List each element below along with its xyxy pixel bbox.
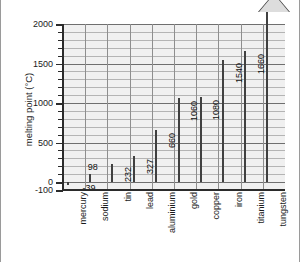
category-gridline — [107, 24, 108, 190]
y-axis-line — [62, 24, 64, 190]
x-axis-tick-labels: mercurysodiumtinleadaluminiumgoldcopperi… — [63, 192, 285, 260]
y-axis-tick — [58, 119, 63, 120]
y-axis-tick — [58, 32, 63, 33]
bar-value-label: 660 — [167, 133, 177, 148]
bar-titanium — [244, 51, 246, 182]
y-axis-tick — [56, 103, 63, 105]
bar-value-label: 327 — [145, 159, 155, 174]
bar-aluminium — [155, 130, 157, 182]
y-axis-tick — [58, 135, 63, 136]
x-axis-tick-label: lead — [145, 192, 155, 209]
bar-mercury — [67, 182, 69, 185]
arrow-head-icon — [259, 0, 289, 12]
y-axis-tick — [58, 95, 63, 96]
x-axis-line — [62, 189, 285, 191]
bar-value-label: 1540 — [234, 63, 244, 83]
y-axis-tick-label: 500 — [38, 138, 53, 148]
bar-value-label: 1080 — [211, 100, 221, 120]
bar-tungsten — [266, 12, 268, 182]
y-axis-tick — [58, 158, 63, 159]
bar-tin — [111, 164, 113, 182]
y-axis-tick — [58, 166, 63, 167]
bar-sodium — [89, 174, 91, 182]
y-axis-tick — [56, 182, 63, 184]
category-gridline — [241, 24, 242, 190]
category-gridline — [85, 24, 86, 190]
y-axis-tick-labels: 2000150010005000-100 — [1, 24, 59, 190]
y-axis-tick — [58, 127, 63, 128]
x-axis-tick-label: aluminium — [167, 192, 177, 233]
x-axis-tick-label: mercury — [78, 192, 88, 225]
x-axis-tick-label: titanium — [256, 192, 266, 224]
y-axis-tick — [58, 71, 63, 72]
x-axis-tick-label: copper — [211, 192, 221, 220]
category-gridline — [130, 24, 131, 190]
x-axis-tick-label: iron — [234, 192, 244, 207]
y-axis-tick-label: 1500 — [33, 59, 53, 69]
bar-value-label: 1060 — [189, 101, 199, 121]
bar-value-label: 232 — [123, 167, 133, 182]
bar-lead — [133, 156, 135, 182]
y-axis-tick — [58, 56, 63, 57]
y-axis-tick — [58, 40, 63, 41]
y-axis-tick — [58, 111, 63, 112]
melting-point-bar-chart: melting point (°C) 2000150010005000-100 … — [0, 0, 300, 262]
y-axis-tick-label: -100 — [35, 185, 53, 195]
x-axis-tick-label: gold — [189, 192, 199, 209]
y-axis-tick-label: 1000 — [33, 98, 53, 108]
y-axis-tick — [56, 24, 63, 26]
x-axis-tick-label: tungsten — [278, 192, 288, 227]
bar-value-label: 98 — [88, 162, 98, 172]
plot-area: -399823232766010601080154016603400 — [63, 24, 285, 190]
bar-iron — [222, 60, 224, 182]
x-axis-tick-label: tin — [123, 192, 133, 202]
x-axis-tick-label: sodium — [100, 192, 110, 221]
y-axis-tick — [56, 64, 63, 66]
y-axis-tick — [58, 87, 63, 88]
y-axis-tick — [58, 150, 63, 151]
bar-value-label: 1660 — [256, 54, 266, 74]
category-gridline — [263, 24, 264, 190]
y-axis-tick-label: 2000 — [33, 19, 53, 29]
y-axis-tick — [58, 48, 63, 49]
category-gridline — [174, 24, 175, 190]
y-axis-tick — [56, 143, 63, 145]
bar-gold — [178, 98, 180, 182]
bar-copper — [200, 97, 202, 182]
y-axis-tick — [58, 174, 63, 175]
y-axis-tick — [58, 79, 63, 80]
y-axis-tick — [56, 190, 63, 192]
